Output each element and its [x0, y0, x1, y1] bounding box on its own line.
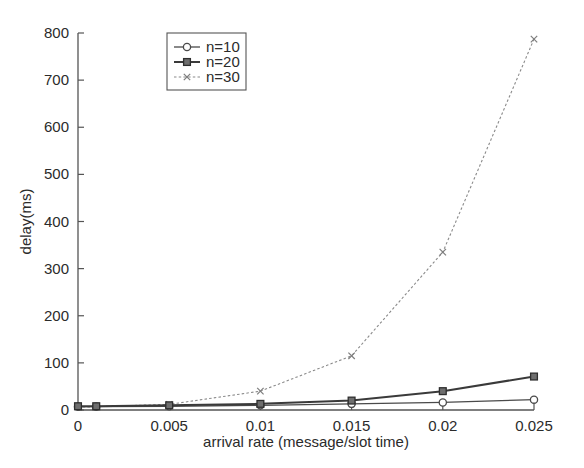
marker-point-n30	[531, 36, 537, 42]
marker-point-n20	[531, 373, 538, 380]
y-tick-label: 700	[44, 71, 69, 88]
marker-point-n10	[530, 396, 537, 403]
series-line	[78, 39, 534, 407]
y-tick-label: 800	[44, 24, 69, 41]
marker-point-n20	[166, 402, 173, 409]
y-tick-label: 600	[44, 118, 69, 135]
y-tick-label: 300	[44, 260, 69, 277]
axis-labels-group: arrival rate (message/slot time)delay(ms…	[17, 189, 409, 450]
chart-canvas: 010020030040050060070080000.0050.010.015…	[0, 0, 584, 468]
series-n30	[75, 36, 537, 410]
x-axis-title: arrival rate (message/slot time)	[203, 433, 409, 450]
legend-marker-sample	[184, 59, 191, 66]
axes-group: 010020030040050060070080000.0050.010.015…	[44, 24, 553, 434]
marker-point-n20	[257, 400, 264, 407]
marker-point-n30	[257, 388, 263, 394]
marker-point-n10	[439, 399, 446, 406]
y-tick-label: 200	[44, 307, 69, 324]
marker-point-n20	[348, 397, 355, 404]
legend-group[interactable]: n=10n=20n=30	[167, 33, 246, 90]
y-tick-label: 100	[44, 354, 69, 371]
y-tick-label: 400	[44, 213, 69, 230]
chart-figure: 010020030040050060070080000.0050.010.015…	[0, 0, 584, 468]
axis-spines	[78, 33, 534, 410]
y-axis-title: delay(ms)	[17, 189, 34, 255]
legend-marker-sample	[183, 43, 190, 50]
marker-point-n20	[93, 403, 100, 410]
marker-point-n20	[439, 388, 446, 395]
x-tick-label: 0.005	[150, 417, 188, 434]
series-group	[74, 36, 537, 410]
x-tick-label: 0.025	[515, 417, 553, 434]
marker-point-n20	[75, 403, 82, 410]
x-tick-label: 0.01	[246, 417, 275, 434]
legend-label: n=30	[206, 68, 240, 85]
y-tick-label: 500	[44, 165, 69, 182]
x-tick-label: 0.02	[428, 417, 457, 434]
y-tick-label: 0	[61, 401, 69, 418]
marker-point-n30	[348, 353, 354, 359]
x-tick-label: 0.015	[333, 417, 371, 434]
x-tick-label: 0	[74, 417, 82, 434]
marker-point-n30	[440, 249, 446, 255]
